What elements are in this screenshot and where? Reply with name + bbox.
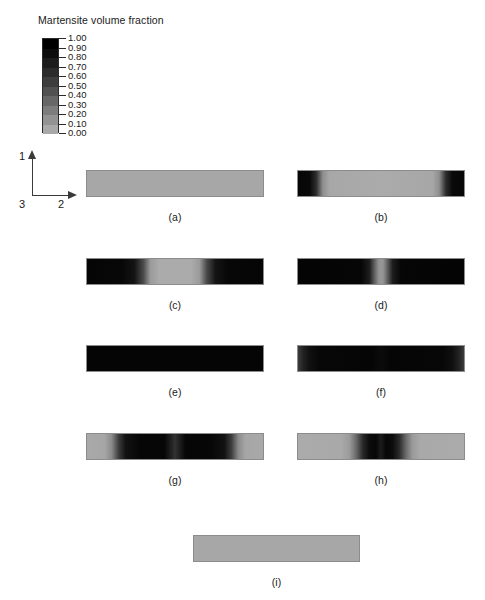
colorbar-tick [59,48,66,49]
specimen-panel-d [297,258,465,285]
colorbar-gradient [42,38,59,133]
colorbar-band [43,96,58,106]
colorbar-tick [59,105,66,106]
colorbar-band [43,58,58,68]
specimen-panel-h [297,433,465,460]
panel-caption-d: (d) [297,299,465,311]
axis-label-vertical: 1 [19,150,25,162]
colorbar: 1.000.900.800.700.600.500.400.300.200.10… [42,38,59,133]
colorbar-band [43,68,58,78]
legend-title: Martensite volume fraction [38,14,164,26]
axis-vertical-arrow-icon [28,150,36,159]
axis-horizontal-line [32,195,70,196]
specimen-panel-i [193,535,360,562]
colorbar-tick [59,114,66,115]
colorbar-band [43,49,58,59]
panel-caption-a: (a) [86,211,264,223]
specimen-panel-a [86,170,264,197]
colorbar-tick [59,133,66,134]
colorbar-tick [59,95,66,96]
specimen-panel-f [297,345,465,372]
axis-label-origin: 3 [19,198,25,210]
colorbar-tick-label: 0.00 [68,128,87,138]
axis-label-horizontal: 2 [58,198,64,210]
panel-caption-h: (h) [297,474,465,486]
specimen-panel-c [86,258,264,285]
colorbar-band [43,39,58,49]
colorbar-band [43,77,58,87]
specimen-panel-b [297,170,465,197]
axis-vertical-line [32,158,33,196]
specimen-panel-e [86,345,264,372]
colorbar-tick [59,67,66,68]
panel-caption-c: (c) [86,299,264,311]
colorbar-band [43,115,58,125]
axis-horizontal-arrow-icon [68,191,77,199]
specimen-panel-g [86,433,264,460]
panel-caption-g: (g) [86,474,264,486]
colorbar-tick [59,124,66,125]
panel-caption-f: (f) [297,386,465,398]
colorbar-band [43,106,58,116]
colorbar-band [43,125,58,135]
colorbar-tick [59,86,66,87]
colorbar-tick [59,57,66,58]
axis-triad: 1 3 2 [18,148,88,210]
panel-caption-i: (i) [193,576,360,588]
panel-caption-e: (e) [86,386,264,398]
colorbar-tick [59,76,66,77]
panel-caption-b: (b) [297,211,465,223]
colorbar-tick [59,38,66,39]
colorbar-band [43,87,58,97]
